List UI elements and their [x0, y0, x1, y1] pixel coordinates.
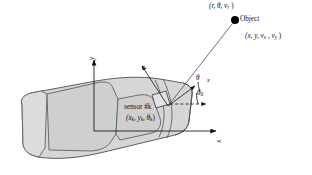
sensor-name-label: sensor #k — [124, 104, 151, 111]
vehicle-axis-y-label: y — [88, 57, 96, 60]
object-measurement-close: ) — [229, 2, 233, 10]
object-measurement-label: (r, θ, vr ) — [209, 3, 234, 10]
theta-angle-label: θ — [196, 75, 200, 82]
object-measurement-text: (r, θ, v — [209, 2, 227, 10]
sensor-pose-label: (xk, yk, θk) — [126, 115, 155, 122]
sensor-pose-mid1: , y — [134, 114, 141, 122]
theta0-angle-label: θ0 — [197, 90, 203, 97]
vehicle-axis-x-label: x — [215, 140, 223, 143]
vehicle-rear-panel — [21, 91, 47, 157]
diagram-canvas: (r, θ, vr ) Object (x, y, vx , vy ) θ x … — [0, 0, 312, 175]
object-state-middle: , v — [266, 32, 275, 40]
sensor-axis-x-label: x — [207, 77, 210, 83]
object-name-label: Object — [240, 16, 259, 23]
vehicle-top-view — [21, 77, 192, 158]
vehicle-rear-window — [47, 82, 118, 151]
object-state-open: (x, y, v — [245, 32, 264, 40]
theta0-subscript: 0 — [201, 91, 204, 97]
sensor-axis-y-label: y — [140, 65, 146, 68]
object-state-label: (x, y, vx , vy ) — [245, 33, 281, 40]
diagram-vector-layer — [0, 0, 312, 175]
object-point-marker — [231, 16, 239, 24]
object-state-close: ) — [277, 32, 281, 40]
sensor-pose-close: ) — [152, 114, 154, 122]
